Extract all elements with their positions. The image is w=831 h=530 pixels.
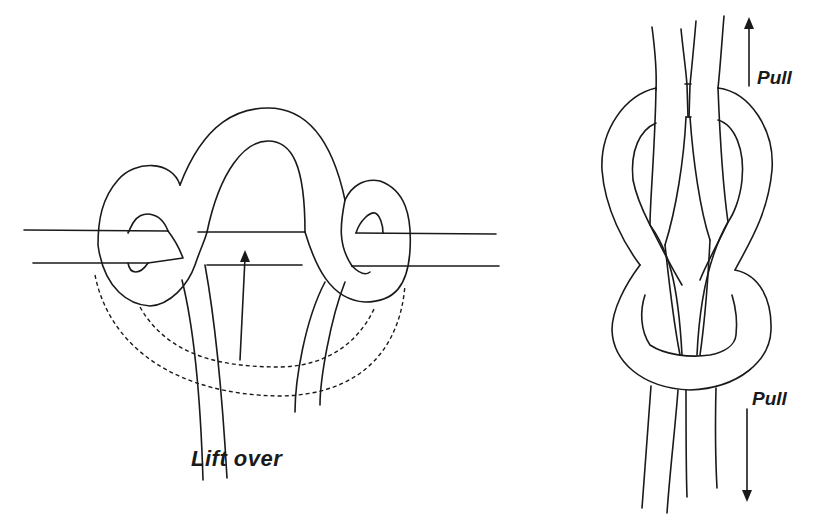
pull-top-label: Pull — [757, 67, 792, 89]
right-knot-figure — [602, 16, 772, 513]
left-knot-figure — [24, 108, 499, 480]
down-arrow-icon — [742, 490, 752, 502]
pull-bottom-label: Pull — [752, 388, 787, 410]
knot-diagram — [0, 0, 831, 530]
lift-over-label: Lift over — [191, 446, 282, 472]
up-arrow-icon — [744, 17, 754, 29]
